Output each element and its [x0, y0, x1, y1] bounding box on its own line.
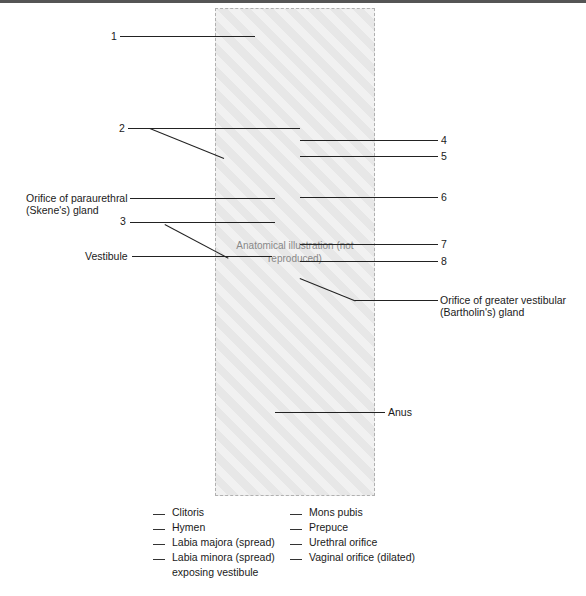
- callout-number-4: 4: [441, 134, 447, 146]
- answer-blank[interactable]: [290, 520, 302, 530]
- top-border-rule: [0, 0, 586, 3]
- leader-line-vestibule: [132, 256, 272, 257]
- leader-line-bartholin-b: [355, 300, 438, 301]
- answer-blank[interactable]: [290, 535, 302, 545]
- legend-label: Labia majora (spread): [172, 535, 275, 550]
- legend-item: Mons pubis: [290, 505, 415, 520]
- answer-blank[interactable]: [153, 535, 165, 545]
- callout-skene-line2: (Skene's) gland: [26, 204, 99, 216]
- callout-bartholin-line1: Orifice of greater vestibular: [440, 294, 566, 306]
- answer-blank[interactable]: [153, 550, 165, 560]
- callout-number-3: 3: [120, 215, 126, 227]
- legend-item: Clitoris: [153, 505, 275, 520]
- legend-item: Labia majora (spread): [153, 535, 275, 550]
- callout-number-6: 6: [441, 191, 447, 203]
- callout-number-1: 1: [111, 30, 117, 42]
- callout-anus: Anus: [388, 406, 412, 418]
- legend-item: Prepuce: [290, 520, 415, 535]
- leader-line-6: [300, 197, 438, 198]
- callout-number-8: 8: [441, 255, 447, 267]
- callout-skene-line1: Orifice of paraurethral: [26, 192, 128, 204]
- anatomical-figure-region: Anatomical illustration (not reproduced): [215, 8, 375, 496]
- callout-number-5: 5: [441, 150, 447, 162]
- leader-line-4: [300, 140, 438, 141]
- figure-image-placeholder: Anatomical illustration (not reproduced): [215, 8, 375, 496]
- legend-left-column: Clitoris Hymen Labia majora (spread) Lab…: [153, 505, 275, 580]
- leader-line-5: [300, 156, 438, 157]
- leader-line-3a: [130, 222, 275, 223]
- answer-blank[interactable]: [290, 505, 302, 515]
- callout-bartholin-line2: (Bartholin's) gland: [440, 306, 524, 318]
- answer-blank[interactable]: [290, 550, 302, 560]
- legend-label: Clitoris: [172, 505, 204, 520]
- legend-label: Vaginal orifice (dilated): [309, 550, 415, 565]
- legend-label: Urethral orifice: [309, 535, 377, 550]
- legend-label: Hymen: [172, 520, 205, 535]
- callout-number-7: 7: [441, 238, 447, 250]
- leader-line-1: [120, 36, 255, 37]
- answer-blank[interactable]: [153, 520, 165, 530]
- leader-line-2b: [150, 128, 225, 159]
- legend-item: Urethral orifice: [290, 535, 415, 550]
- callout-number-2: 2: [119, 122, 125, 134]
- legend-label: Mons pubis: [309, 505, 363, 520]
- callout-vestibule: Vestibule: [85, 250, 128, 262]
- legend-label: Labia minora (spread): [172, 551, 275, 563]
- legend-item: Labia minora (spread)exposing vestibule: [153, 550, 275, 580]
- legend-label: Prepuce: [309, 520, 348, 535]
- figure-placeholder-caption: Anatomical illustration (not reproduced): [216, 233, 374, 271]
- leader-line-7: [300, 244, 438, 245]
- leader-line-anus: [275, 412, 385, 413]
- legend-label-line2: exposing vestibule: [172, 566, 258, 578]
- legend-item: Hymen: [153, 520, 275, 535]
- answer-blank[interactable]: [153, 505, 165, 515]
- leader-line-8: [300, 261, 438, 262]
- legend-item: Vaginal orifice (dilated): [290, 550, 415, 565]
- legend-right-column: Mons pubis Prepuce Urethral orifice Vagi…: [290, 505, 415, 565]
- leader-line-skene: [130, 198, 275, 199]
